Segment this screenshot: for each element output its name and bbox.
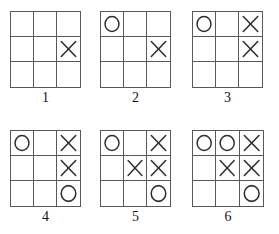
empty-cell [34,131,56,155]
x-mark [57,37,80,61]
board-label-1: 1 [10,91,81,105]
cell-r2-c2[interactable] [216,37,239,62]
tic-tac-toe-grid [10,11,81,88]
cell-r1-c1[interactable] [101,12,124,37]
empty-cell [216,12,238,36]
empty-cell [216,181,238,206]
x-mark [147,131,170,155]
cell-r2-c2[interactable] [34,37,57,62]
cell-r2-c3[interactable] [147,37,170,62]
cell-r2-c2[interactable] [124,37,147,62]
cell-r2-c1[interactable] [193,37,216,62]
empty-cell [193,156,215,180]
tic-tac-toe-grid [10,130,81,207]
x-mark [240,131,263,155]
cell-r2-c3[interactable] [57,156,80,181]
empty-cell [101,181,123,206]
board-label-2: 2 [100,91,171,105]
cell-r3-c1[interactable] [101,181,124,206]
cell-r3-c3[interactable] [57,62,80,87]
cell-r2-c2[interactable] [124,156,147,181]
empty-cell [147,62,170,87]
board-label-3: 3 [192,91,263,105]
cell-r3-c2[interactable] [34,181,57,206]
empty-cell [11,181,33,206]
clipped-text-above [0,0,279,5]
cell-r1-c2[interactable] [124,12,147,37]
cell-r3-c3[interactable] [147,62,170,87]
o-mark [101,131,123,155]
x-mark [239,12,262,36]
cell-r2-c1[interactable] [101,37,124,62]
cell-r3-c1[interactable] [11,181,34,206]
cell-r1-c3[interactable] [239,12,262,37]
cell-r1-c3[interactable] [147,12,170,37]
cell-r2-c3[interactable] [147,156,170,181]
o-mark [240,181,263,206]
empty-cell [34,156,56,180]
cell-r1-c3[interactable] [57,12,80,37]
empty-cell [216,37,238,61]
cell-r3-c3[interactable] [57,181,80,206]
cell-r3-c2[interactable] [124,62,147,87]
cell-r1-c1[interactable] [101,131,124,156]
empty-cell [124,62,146,87]
empty-cell [124,181,146,206]
o-mark [193,131,215,155]
x-mark [216,156,238,180]
cell-r3-c2[interactable] [216,181,239,206]
cell-r1-c1[interactable] [11,12,34,37]
cell-r1-c2[interactable] [216,12,239,37]
empty-cell [57,12,80,36]
board-label-6: 6 [192,210,264,224]
cell-r3-c3[interactable] [239,62,262,87]
cell-r3-c3[interactable] [147,181,170,206]
empty-cell [34,12,56,36]
cell-r3-c2[interactable] [124,181,147,206]
tic-tac-toe-grid [100,130,171,207]
cell-r3-c3[interactable] [240,181,263,206]
empty-cell [193,37,215,61]
cell-r1-c2[interactable] [34,131,57,156]
cell-r2-c3[interactable] [57,37,80,62]
x-mark [240,156,263,180]
cell-r1-c2[interactable] [124,131,147,156]
o-mark [193,12,215,36]
cell-r2-c1[interactable] [11,156,34,181]
x-mark [239,37,262,61]
cell-r3-c1[interactable] [101,62,124,87]
cell-r3-c2[interactable] [34,62,57,87]
cell-r2-c2[interactable] [216,156,239,181]
empty-cell [193,181,215,206]
figure-canvas: 123456 [0,0,279,234]
empty-cell [124,131,146,155]
cell-r1-c3[interactable] [57,131,80,156]
empty-cell [216,62,238,87]
cell-r2-c2[interactable] [34,156,57,181]
cell-r3-c1[interactable] [11,62,34,87]
cell-r2-c3[interactable] [240,156,263,181]
x-mark [147,156,170,180]
cell-r2-c1[interactable] [101,156,124,181]
cell-r1-c2[interactable] [216,131,239,156]
cell-r1-c1[interactable] [193,131,216,156]
tic-tac-toe-grid [192,130,264,207]
cell-r3-c1[interactable] [193,62,216,87]
cell-r1-c3[interactable] [240,131,263,156]
x-mark [57,131,80,155]
empty-cell [101,156,123,180]
cell-r2-c1[interactable] [193,156,216,181]
cell-r2-c3[interactable] [239,37,262,62]
board-label-4: 4 [10,210,81,224]
o-mark [11,131,33,155]
cell-r1-c2[interactable] [34,12,57,37]
cell-r3-c2[interactable] [216,62,239,87]
cell-r3-c1[interactable] [193,181,216,206]
empty-cell [11,37,33,61]
cell-r1-c1[interactable] [11,131,34,156]
empty-cell [34,37,56,61]
cell-r1-c3[interactable] [147,131,170,156]
cell-r2-c1[interactable] [11,37,34,62]
cell-r1-c1[interactable] [193,12,216,37]
empty-cell [11,62,33,87]
